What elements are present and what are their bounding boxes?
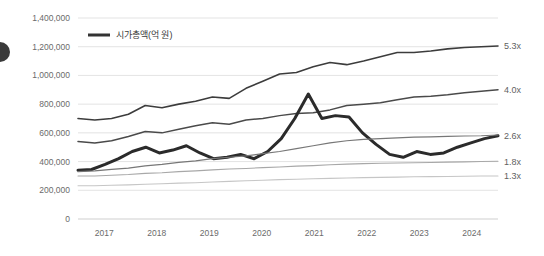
right-axis-multiplier-labels: 5.3x4.0x2.6x1.8x1.3x — [504, 41, 522, 181]
x-axis-tick-label: 2021 — [305, 228, 324, 238]
series-5.3x — [78, 46, 498, 120]
y-axis-tick-label: 200,000 — [39, 185, 70, 195]
x-axis-tick-label: 2022 — [357, 228, 376, 238]
series-end-label-1.8x: 1.8x — [504, 157, 522, 167]
series-end-label-5.3x: 5.3x — [504, 41, 522, 51]
series-1.8x — [78, 161, 498, 176]
series-end-label-4.0x: 4.0x — [504, 85, 522, 95]
x-axis-tick-label: 2020 — [252, 228, 271, 238]
y-axis-tick-labels: 0200,000400,000600,000800,0001,000,0001,… — [32, 13, 70, 224]
x-axis-tick-label: 2018 — [147, 228, 166, 238]
series-4.0x — [78, 90, 498, 143]
x-axis-tick-label: 2024 — [462, 228, 481, 238]
y-axis-tick-label: 0 — [65, 214, 70, 224]
series-end-label-1.3x: 1.3x — [504, 171, 522, 181]
y-axis-tick-label: 1,000,000 — [32, 70, 70, 80]
series-1.3x — [78, 176, 498, 186]
line-chart: 0200,000400,000600,000800,0001,000,0001,… — [0, 0, 544, 256]
legend-label: 시가총액(억 원) — [116, 29, 173, 40]
chart-container: 0200,000400,000600,000800,0001,000,0001,… — [0, 0, 544, 256]
x-axis-tick-label: 2019 — [200, 228, 219, 238]
gridlines-group — [78, 18, 498, 219]
x-axis-tick-label: 2017 — [95, 228, 114, 238]
x-axis-tick-label: 2023 — [410, 228, 429, 238]
data-series-group — [78, 46, 498, 186]
y-axis-tick-label: 1,400,000 — [32, 13, 70, 23]
y-axis-tick-label: 400,000 — [39, 157, 70, 167]
series-end-label-2.6x: 2.6x — [504, 131, 522, 141]
x-axis-tick-labels: 20172018201920202021202220232024 — [95, 228, 482, 238]
y-axis-tick-label: 600,000 — [39, 128, 70, 138]
y-axis-tick-label: 800,000 — [39, 99, 70, 109]
legend: 시가총액(억 원) — [88, 29, 173, 40]
y-axis-tick-label: 1,200,000 — [32, 42, 70, 52]
